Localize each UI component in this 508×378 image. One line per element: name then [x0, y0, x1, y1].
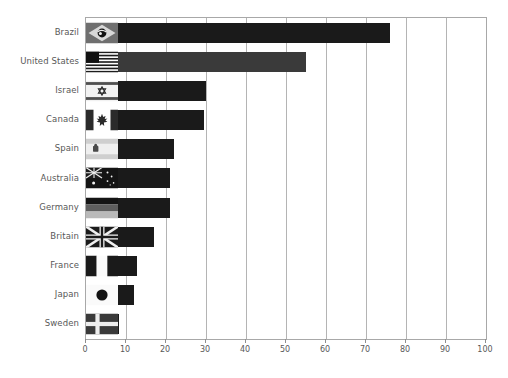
japan-flag — [86, 285, 118, 306]
bar-row — [86, 76, 486, 105]
germany-flag — [86, 197, 118, 218]
category-label: United States — [0, 57, 79, 66]
x-tick-label: 10 — [120, 345, 130, 354]
x-tick-label: 100 — [477, 345, 492, 354]
bar-track — [86, 256, 486, 276]
x-tick-mark — [125, 339, 126, 343]
x-tick-label: 90 — [440, 345, 450, 354]
bar — [86, 23, 390, 43]
bar-track — [86, 52, 486, 72]
x-tick-mark — [445, 339, 446, 343]
bar-track — [86, 110, 486, 130]
x-tick-label: 30 — [200, 345, 210, 354]
bar-row — [86, 135, 486, 164]
canada-flag — [86, 110, 118, 131]
bar-row — [86, 251, 486, 280]
x-tick-label: 70 — [360, 345, 370, 354]
bar-row — [86, 222, 486, 251]
bar-chart: BrazilUnited StatesIsraelCanadaSpainAust… — [0, 0, 508, 378]
bar-row — [86, 193, 486, 222]
value-axis: 0102030405060708090100 — [85, 339, 487, 359]
x-tick-mark — [285, 339, 286, 343]
bar-row — [86, 18, 486, 47]
bar-track — [86, 285, 486, 305]
category-label: France — [0, 261, 79, 270]
x-tick-label: 0 — [82, 345, 87, 354]
brazil-flag — [86, 22, 118, 43]
bar-track — [86, 81, 486, 101]
united-states-flag — [86, 51, 118, 72]
x-tick-label: 40 — [240, 345, 250, 354]
bar-track — [86, 139, 486, 159]
category-label: Japan — [0, 290, 79, 299]
sweden-flag — [86, 314, 118, 335]
x-tick-label: 50 — [280, 345, 290, 354]
israel-flag — [86, 80, 118, 101]
bar-row — [86, 164, 486, 193]
category-label: Sweden — [0, 319, 79, 328]
bar-track — [86, 168, 486, 188]
category-label: Britain — [0, 232, 79, 241]
x-tick-label: 80 — [400, 345, 410, 354]
category-label: Brazil — [0, 27, 79, 36]
australia-flag — [86, 168, 118, 189]
x-tick-mark — [245, 339, 246, 343]
x-tick-mark — [365, 339, 366, 343]
category-label: Germany — [0, 202, 79, 211]
bar-track — [86, 227, 486, 247]
x-tick-label: 60 — [320, 345, 330, 354]
spain-flag — [86, 139, 118, 160]
bar-row — [86, 281, 486, 310]
bar-track — [86, 314, 486, 334]
britain-flag — [86, 226, 118, 247]
bar-track — [86, 198, 486, 218]
category-label: Spain — [0, 144, 79, 153]
x-tick-mark — [165, 339, 166, 343]
bar-row — [86, 310, 486, 339]
x-tick-mark — [485, 339, 486, 343]
x-tick-mark — [325, 339, 326, 343]
bar — [86, 52, 306, 72]
bar-row — [86, 47, 486, 76]
category-label: Canada — [0, 115, 79, 124]
x-tick-mark — [85, 339, 86, 343]
bar-row — [86, 106, 486, 135]
france-flag — [86, 256, 118, 277]
category-axis: BrazilUnited StatesIsraelCanadaSpainAust… — [0, 17, 79, 338]
category-label: Australia — [0, 173, 79, 182]
x-tick-label: 20 — [160, 345, 170, 354]
x-tick-mark — [205, 339, 206, 343]
category-label: Israel — [0, 86, 79, 95]
x-tick-mark — [405, 339, 406, 343]
bar-track — [86, 23, 486, 43]
plot-area — [85, 17, 487, 340]
